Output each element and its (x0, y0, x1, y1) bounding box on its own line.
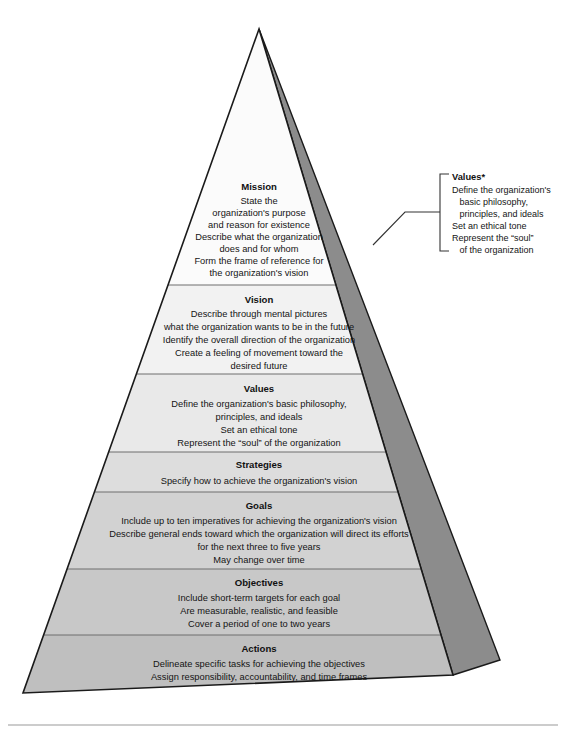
band-line: for the next three to five years (198, 542, 321, 552)
band-line: Form the frame of reference for (194, 256, 323, 266)
band-title-vision: Vision (245, 294, 274, 305)
band-line: Specify how to achieve the organization'… (161, 476, 358, 486)
callout-line: principles, and ideals (452, 209, 544, 219)
callout-line: basic philosophy, (452, 197, 528, 207)
callout-line: Define the organization's (452, 185, 551, 195)
band-line: the organization's vision (210, 268, 309, 278)
band-line: Identify the overall direction of the or… (163, 335, 355, 345)
callout-line: of the organization (452, 245, 534, 255)
band-line: Define the organization's basic philosop… (171, 399, 346, 409)
band-title-strategies: Strategies (236, 459, 282, 470)
callout-bracket (440, 174, 449, 251)
strategic-planning-pyramid: Mission State the organization's purpose… (0, 0, 566, 743)
band-line: desired future (231, 361, 288, 371)
band-line: Set an ethical tone (220, 425, 297, 435)
band-title-actions: Actions (241, 643, 276, 654)
band-line: Cover a period of one to two years (188, 619, 330, 629)
band-title-mission: Mission (241, 181, 277, 192)
band-line: Describe through mental pictures (191, 309, 328, 319)
band-line: Create a feeling of movement toward the (175, 348, 343, 358)
band-line: Include up to ten imperatives for achiev… (121, 516, 397, 526)
band-line: May change over time (213, 555, 304, 565)
callout-line: Represent the “soul” (452, 233, 534, 243)
band-line: principles, and ideals (216, 412, 303, 422)
band-line: Assign responsibility, accountability, a… (151, 672, 368, 682)
band-line: organization's purpose (212, 208, 305, 218)
band-line: what the organization wants to be in the… (163, 322, 354, 332)
band-line: Delineate specific tasks for achieving t… (153, 659, 365, 669)
band-line: State the (240, 196, 277, 206)
band-title-values: Values (244, 383, 274, 394)
band-fill-strategies (0, 452, 566, 492)
band-line: does and for whom (219, 244, 298, 254)
band-line: Represent the “soul” of the organization (177, 438, 340, 448)
band-line: Are measurable, realistic, and feasible (180, 606, 338, 616)
band-line: Describe what the organization (195, 232, 323, 242)
band-line: Include short-term targets for each goal (178, 593, 340, 603)
band-line: Describe general ends toward which the o… (109, 529, 409, 539)
band-title-objectives: Objectives (235, 577, 284, 588)
band-line: and reason for existence (208, 220, 310, 230)
band-title-goals: Goals (246, 500, 273, 511)
callout-leader-line (373, 212, 440, 245)
callout-title: Values* (452, 172, 485, 182)
callout-line: Set an ethical tone (452, 221, 527, 231)
diagram-canvas: Mission State the organization's purpose… (0, 0, 566, 743)
